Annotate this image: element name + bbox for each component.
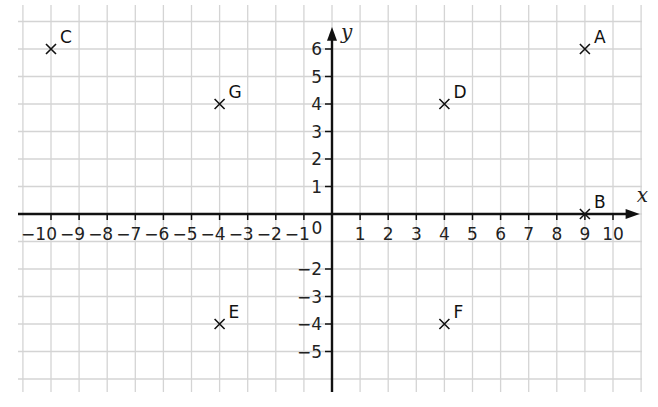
x-tick-label: −4 bbox=[201, 224, 226, 244]
x-axis-label: x bbox=[637, 183, 648, 207]
point-e: E bbox=[215, 302, 240, 329]
point-label: D bbox=[453, 82, 466, 102]
y-axis-label: y bbox=[340, 20, 353, 44]
x-tick-label: −5 bbox=[172, 224, 197, 244]
x-tick-label: 1 bbox=[355, 224, 366, 244]
grid bbox=[18, 5, 642, 392]
point-f: F bbox=[439, 302, 463, 329]
point-label: B bbox=[594, 192, 606, 212]
x-tick-label: 2 bbox=[383, 224, 394, 244]
x-tick-label: −3 bbox=[229, 224, 254, 244]
x-tick-label: 6 bbox=[495, 224, 506, 244]
y-tick-label: −4 bbox=[297, 314, 322, 334]
point-g: G bbox=[215, 82, 242, 109]
x-tick-label: 9 bbox=[579, 224, 590, 244]
y-tick-label: −3 bbox=[297, 287, 322, 307]
y-tick-label: 5 bbox=[311, 67, 322, 87]
plotted-points: ABCDEFG bbox=[46, 27, 606, 329]
y-tick-label: 6 bbox=[311, 39, 322, 59]
x-tick-label: 8 bbox=[551, 224, 562, 244]
point-label: E bbox=[229, 302, 240, 322]
point-d: D bbox=[439, 82, 466, 109]
y-tick-label: 2 bbox=[311, 149, 322, 169]
point-label: G bbox=[229, 82, 242, 102]
y-tick-label: −5 bbox=[297, 342, 322, 362]
point-label: C bbox=[60, 27, 72, 47]
y-axis-arrow-icon bbox=[327, 27, 337, 41]
y-tick-label: 3 bbox=[311, 122, 322, 142]
point-c: C bbox=[46, 27, 72, 54]
x-tick-label: 3 bbox=[411, 224, 422, 244]
x-tick-label: −9 bbox=[60, 224, 85, 244]
x-tick-label: 7 bbox=[523, 224, 534, 244]
x-tick-label: −1 bbox=[285, 224, 310, 244]
coordinate-plane: xy −10−9−8−7−6−5−4−3−2−11234567891065432… bbox=[0, 0, 658, 407]
x-tick-label: 5 bbox=[467, 224, 478, 244]
x-tick-label: −7 bbox=[116, 224, 141, 244]
x-tick-label: −10 bbox=[21, 224, 57, 244]
origin-label: 0 bbox=[312, 218, 323, 238]
y-tick-label: 4 bbox=[311, 94, 322, 114]
axes: xy bbox=[18, 20, 648, 393]
tick-labels: −10−9−8−7−6−5−4−3−2−112345678910654321−2… bbox=[21, 39, 624, 362]
y-tick-label: −2 bbox=[297, 259, 322, 279]
x-tick-label: 4 bbox=[439, 224, 450, 244]
x-tick-label: 10 bbox=[602, 224, 624, 244]
point-a: A bbox=[580, 27, 606, 54]
x-tick-label: −6 bbox=[144, 224, 169, 244]
x-axis-arrow-icon bbox=[626, 209, 640, 219]
y-tick-label: 1 bbox=[311, 177, 322, 197]
x-tick-label: −2 bbox=[257, 224, 282, 244]
point-label: A bbox=[594, 27, 606, 47]
x-tick-label: −8 bbox=[88, 224, 113, 244]
point-label: F bbox=[453, 302, 463, 322]
